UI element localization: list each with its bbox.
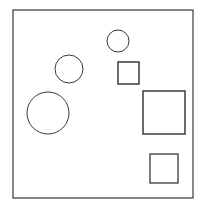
small-square xyxy=(118,62,139,84)
diagram-canvas xyxy=(0,0,202,206)
bottom-square xyxy=(150,154,178,183)
frame-border xyxy=(13,10,193,198)
large-square xyxy=(143,91,185,134)
medium-circle xyxy=(55,55,83,83)
large-circle xyxy=(27,92,69,134)
small-circle xyxy=(107,30,129,52)
